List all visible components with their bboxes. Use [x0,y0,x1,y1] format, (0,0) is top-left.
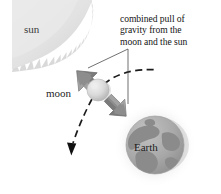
label-earth: Earth [134,141,158,153]
label-sun: sun [24,23,39,35]
orbit-arrowhead [67,143,76,156]
label-moon: moon [46,87,71,99]
figure-canvas: sun moon Earth combined pull of gravity … [0,0,221,194]
caption-line-3: moon and the sun [120,36,219,47]
caption-line-1: combined pull of [120,13,219,24]
sun-body [12,0,94,72]
caption-line-2: gravity from the [120,24,219,35]
caption-combined-pull: combined pull of gravity from the moon a… [120,13,219,47]
